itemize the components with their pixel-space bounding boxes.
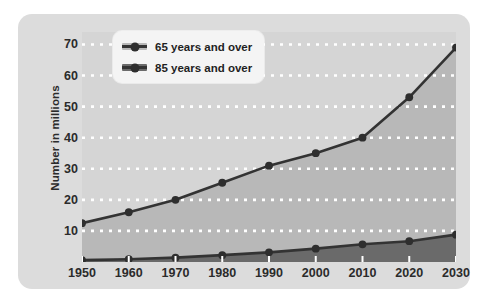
legend-label-85: 85 years and over [155, 62, 252, 74]
x-tick-1960: 1960 [115, 266, 143, 280]
y-tick-20: 20 [38, 193, 78, 207]
x-axis-tick-labels: 195019601970198019902000201020202030 [82, 266, 456, 288]
legend-item-65[interactable]: 65 years and over [122, 38, 252, 55]
x-tick-1990: 1990 [255, 266, 283, 280]
x-tick-1970: 1970 [162, 266, 190, 280]
x-tick-2010: 2010 [349, 266, 377, 280]
x-tick-2020: 2020 [395, 266, 423, 280]
y-tick-50: 50 [38, 100, 78, 114]
x-tick-2030: 2030 [442, 266, 470, 280]
chart-legend: 65 years and over 85 years and over [113, 31, 264, 83]
x-tick-1950: 1950 [68, 266, 96, 280]
y-tick-10: 10 [38, 224, 78, 238]
legend-item-85[interactable]: 85 years and over [122, 59, 252, 76]
y-tick-60: 60 [38, 69, 78, 83]
legend-label-65: 65 years and over [155, 41, 252, 53]
chart-screenshot: Number in millions 10203040506070 195019… [0, 0, 488, 303]
chart-panel: Number in millions 10203040506070 195019… [18, 14, 470, 289]
y-tick-30: 30 [38, 162, 78, 176]
legend-swatch-65-icon [122, 40, 147, 53]
legend-swatch-85-icon [122, 61, 147, 74]
y-tick-40: 40 [38, 131, 78, 145]
y-tick-70: 70 [38, 37, 78, 51]
x-tick-2000: 2000 [302, 266, 330, 280]
x-tick-1980: 1980 [208, 266, 236, 280]
y-axis-tick-labels: 10203040506070 [38, 14, 78, 289]
